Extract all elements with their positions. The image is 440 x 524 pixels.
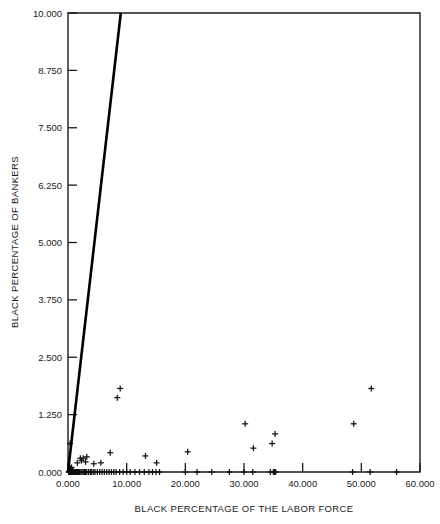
x-tick-label: 0.000 (56, 478, 80, 489)
data-point (242, 421, 248, 427)
data-point (350, 469, 356, 475)
plot-canvas: 0.00010.00020.00030.00040.00050.00060.00… (0, 0, 440, 524)
data-point (107, 450, 113, 456)
data-point (272, 431, 278, 437)
x-tick-label: 10.000 (112, 478, 141, 489)
data-point (368, 385, 374, 391)
data-point (91, 461, 97, 467)
data-point (182, 469, 188, 475)
x-axis-title: BLACK PERCENTAGE OF THE LABOR FORCE (135, 503, 354, 514)
y-tick-label: 10.000 (33, 8, 62, 19)
x-tick-label: 60.000 (405, 478, 434, 489)
data-point (394, 469, 400, 475)
data-point (367, 469, 373, 475)
y-tick-label: 8.750 (38, 65, 62, 76)
frame-outline (68, 13, 420, 472)
data-point (250, 445, 256, 451)
y-axis-title: BLACK PERCENTAGE OF BANKERS (9, 156, 20, 328)
data-point (209, 469, 215, 475)
data-point (351, 421, 357, 427)
y-tick-label: 3.750 (38, 294, 62, 305)
y-tick-label: 0.000 (38, 467, 62, 478)
data-point (185, 449, 191, 455)
y-tick-label: 1.250 (38, 409, 62, 420)
data-point (142, 453, 148, 459)
data-point (269, 441, 275, 447)
x-tick-label: 20.000 (171, 478, 200, 489)
x-tick-label: 40.000 (288, 478, 317, 489)
y-tick-label: 5.000 (38, 237, 62, 248)
data-point (194, 469, 200, 475)
y-tick-label: 7.500 (38, 122, 62, 133)
data-point (250, 469, 256, 475)
y-tick-label: 2.500 (38, 352, 62, 363)
data-point (226, 469, 232, 475)
data-point (117, 385, 123, 391)
data-point-markers (66, 385, 400, 475)
data-point (157, 469, 163, 475)
data-point (114, 395, 120, 401)
x-tick-label: 50.000 (347, 478, 376, 489)
x-tick-label: 30.000 (229, 478, 258, 489)
x-axis-ticks: 0.00010.00020.00030.00040.00050.00060.00… (56, 463, 434, 489)
plot-frame (68, 13, 420, 472)
y-tick-label: 6.250 (38, 180, 62, 191)
data-point (98, 460, 104, 466)
data-point (154, 460, 160, 466)
scatter-plot-figure: 0.00010.00020.00030.00040.00050.00060.00… (0, 0, 440, 524)
data-point (241, 469, 247, 475)
y-axis-ticks: 0.0001.2502.5003.7505.0006.2507.5008.750… (33, 8, 77, 478)
data-point (84, 454, 90, 460)
